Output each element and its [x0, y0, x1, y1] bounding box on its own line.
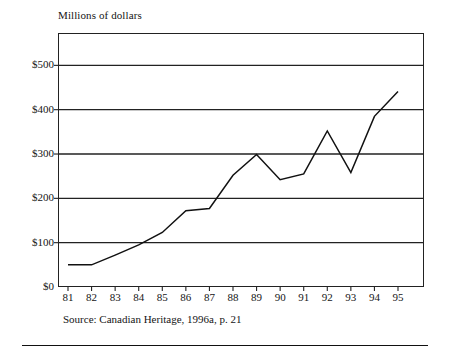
- x-axis-label-87: 87: [204, 291, 215, 303]
- x-axis-label-90: 90: [275, 291, 286, 303]
- x-axis-label-93: 93: [345, 291, 356, 303]
- x-axis-label-89: 89: [251, 291, 262, 303]
- y-axis-label-100: $100: [32, 237, 54, 248]
- bottom-divider-rule: [22, 345, 428, 346]
- chart-title: Millions of dollars: [58, 9, 142, 22]
- y-axis-label-500: $500: [32, 59, 54, 70]
- x-axis-label-91: 91: [298, 291, 309, 303]
- y-axis-label-300: $300: [32, 148, 54, 159]
- plot-area: [58, 33, 424, 287]
- x-axis-label-92: 92: [322, 291, 333, 303]
- x-axis-label-94: 94: [369, 291, 380, 303]
- x-axis-label-82: 82: [86, 291, 97, 303]
- chart-svg: [58, 33, 424, 287]
- y-axis-label-400: $400: [32, 104, 54, 115]
- x-axis-label-95: 95: [393, 291, 404, 303]
- y-axis-label-200: $200: [32, 192, 54, 203]
- x-axis-label-85: 85: [157, 291, 168, 303]
- y-axis-tick-labels: $0$100$200$300$400$500: [0, 33, 54, 287]
- x-axis-tick-labels: 818283848586878889909192939495: [58, 291, 424, 307]
- x-axis-label-86: 86: [180, 291, 191, 303]
- x-axis-tick-marks: [54, 65, 398, 291]
- x-axis-label-84: 84: [133, 291, 144, 303]
- y-axis-label-0: $0: [43, 281, 54, 292]
- data-series-line: [68, 92, 398, 265]
- gridlines-group: [58, 65, 424, 242]
- x-axis-label-88: 88: [228, 291, 239, 303]
- source-note: Source: Canadian Heritage, 1996a, p. 21: [63, 313, 241, 326]
- x-axis-label-83: 83: [110, 291, 121, 303]
- figure-container: Millions of dollars $0$100$200$300$400$5…: [0, 0, 450, 357]
- x-axis-label-81: 81: [63, 291, 74, 303]
